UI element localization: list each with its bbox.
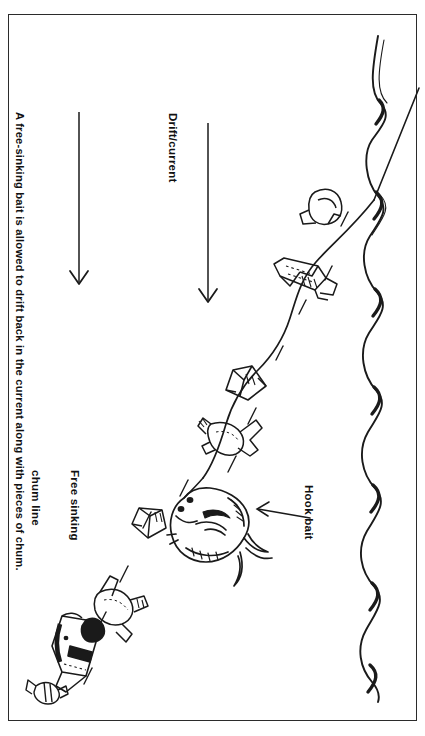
free-sinking-chum-line-label: Free sinking chum line bbox=[4, 470, 108, 541]
chum-label-line-1: Free sinking bbox=[69, 470, 82, 541]
fishing-line bbox=[184, 88, 419, 498]
chum-piece-upper-mid bbox=[274, 258, 337, 300]
drift-arrow-1 bbox=[70, 112, 88, 284]
hook-bait-fish bbox=[167, 488, 272, 586]
drift-arrow-2 bbox=[199, 123, 217, 302]
chum-piece-tail-upper bbox=[198, 418, 262, 456]
diagram-page: A free-sinking bait is allowed to drift … bbox=[0, 0, 425, 736]
chum-piece-left-of-fish bbox=[132, 508, 166, 538]
hook-bait-label: Hook bait bbox=[303, 485, 316, 540]
water-surface-wave bbox=[360, 36, 387, 702]
chum-trail-ticks bbox=[84, 212, 348, 684]
drift-current-label: Drift/current bbox=[167, 113, 180, 183]
fishing-diagram-artwork bbox=[0, 0, 425, 736]
chum-piece-top bbox=[300, 189, 342, 224]
chum-label-line-2: chum line bbox=[30, 470, 43, 541]
chum-piece-head bbox=[52, 613, 104, 692]
chum-piece-scrap bbox=[26, 680, 68, 704]
